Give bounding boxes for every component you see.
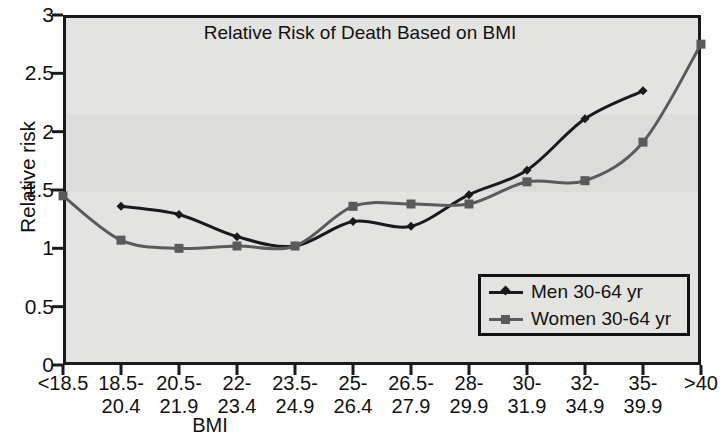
y-tick-label: 2.5	[0, 62, 54, 83]
plot-background-band	[66, 114, 698, 192]
legend-label-men: Men 30-64 yr	[531, 281, 643, 303]
y-tick-label: 3	[0, 4, 54, 25]
legend-entry-men: Men 30-64 yr	[489, 279, 643, 305]
legend: Men 30-64 yr Women 30-64 yr	[478, 274, 690, 336]
legend-marker-diamond-icon	[489, 285, 523, 299]
y-tick-label: 2	[0, 121, 54, 142]
x-tick-label: >40	[658, 372, 722, 395]
legend-label-women: Women 30-64 yr	[531, 308, 671, 330]
y-tick-label: 1	[0, 237, 54, 258]
legend-marker-square-icon	[489, 312, 523, 326]
y-tick-label: 1.5	[0, 179, 54, 200]
y-tick-label: 0.5	[0, 296, 54, 317]
x-axis-title: BMI	[150, 414, 270, 436]
chart-title: Relative Risk of Death Based on BMI	[150, 22, 570, 44]
legend-entry-women: Women 30-64 yr	[489, 306, 671, 332]
